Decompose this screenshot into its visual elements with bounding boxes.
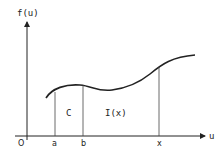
y-axis-label: f(u): [17, 8, 39, 18]
function-curve: [46, 55, 195, 98]
x-axis-label: u: [209, 131, 214, 141]
origin-label: O: [18, 139, 24, 148]
tick-label-b: b: [81, 139, 86, 148]
region-label-integral: I(x): [105, 108, 127, 118]
tick-label-a: a: [52, 139, 57, 148]
integral-diagram: f(u) u O a b x C I(x): [0, 0, 224, 155]
tick-label-x: x: [157, 139, 162, 148]
region-label-c: C: [66, 108, 71, 118]
